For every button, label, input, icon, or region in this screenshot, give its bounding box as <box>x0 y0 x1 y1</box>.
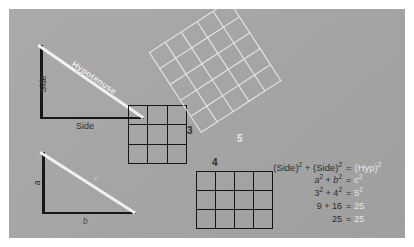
equation-right: =c2 <box>346 174 402 187</box>
square-on-leg-a <box>128 105 187 164</box>
grid-cell <box>168 125 187 144</box>
exponent: 2 <box>359 186 363 193</box>
grid-cell <box>168 145 187 164</box>
label-hypotenuse: Hypotenuse <box>70 59 118 96</box>
equation-row: 9 + 16 =25 <box>250 200 402 213</box>
equation-row: (Side)2 + (Side)2 =(Hyp)2 <box>250 161 402 174</box>
grid-cell <box>216 210 235 229</box>
label-leg-b: b <box>83 216 88 226</box>
exponent: 2 <box>319 173 323 180</box>
exponent: 2 <box>359 173 363 180</box>
diagram-panel: Side Side Hypotenuse a b c <box>9 9 405 238</box>
grid-cell <box>216 172 235 191</box>
triangle2-hypotenuse-line <box>39 151 136 214</box>
grid-cell <box>148 106 167 125</box>
grid-cell <box>197 191 216 210</box>
term: 9 <box>317 201 322 211</box>
exponent: 2 <box>299 161 303 168</box>
equation-right: =(Hyp)2 <box>346 161 402 174</box>
right-triangle-abc: a b c <box>42 152 136 214</box>
equation-row: a2 + b2 =c2 <box>250 174 402 187</box>
term: (Hyp) <box>355 162 378 173</box>
label-length-3: 3 <box>187 125 193 136</box>
exponent: 2 <box>378 161 382 168</box>
label-side-horizontal: Side <box>76 121 94 131</box>
label-length-5: 5 <box>237 133 243 144</box>
operator: + <box>326 175 331 185</box>
grid-cell <box>197 210 216 229</box>
equation-left: 25 <box>332 213 346 226</box>
equation-left: (Side)2 + (Side)2 <box>273 161 346 174</box>
term: 25 <box>354 214 364 224</box>
equals-sign: = <box>346 162 355 173</box>
operator: + <box>326 188 331 198</box>
diagram-canvas: Side Side Hypotenuse a b c <box>0 0 414 247</box>
grid-cell <box>129 145 148 164</box>
exponent: 2 <box>338 173 342 180</box>
operator: + <box>324 201 329 211</box>
grid-cell <box>129 106 148 125</box>
grid-cell <box>197 172 216 191</box>
label-leg-a: a <box>32 181 42 186</box>
exponent: 2 <box>319 186 323 193</box>
grid-cell <box>148 125 167 144</box>
term: (Side) <box>273 162 298 173</box>
label-leg-c: c <box>94 174 98 183</box>
label-length-4: 4 <box>212 157 218 168</box>
equation-row: 32 + 42 =52 <box>250 187 402 200</box>
equation-left: 9 + 16 <box>317 200 346 213</box>
exponent: 2 <box>338 186 342 193</box>
exponent: 2 <box>338 161 342 168</box>
grid-cell <box>216 191 235 210</box>
triangle2-vertical-leg <box>42 152 45 213</box>
equation-right: =25 <box>346 200 402 213</box>
term: 25 <box>354 201 364 211</box>
equation-left: 32 + 42 <box>314 187 346 200</box>
equation-right: =52 <box>346 187 402 200</box>
term: 16 <box>332 201 342 211</box>
equation-block: (Side)2 + (Side)2 =(Hyp)2 a2 + b2 =c2 32… <box>250 161 402 226</box>
equation-right: =25 <box>346 213 402 226</box>
triangle2-horizontal-leg <box>42 212 136 215</box>
grid-cell <box>148 145 167 164</box>
grid-cell <box>168 106 187 125</box>
label-side-vertical: Side <box>38 75 48 92</box>
equation-row: 25 =25 <box>250 213 402 226</box>
grid-cell <box>129 125 148 144</box>
term: (Side) <box>313 162 338 173</box>
term: 25 <box>332 214 342 224</box>
operator: + <box>305 162 311 173</box>
